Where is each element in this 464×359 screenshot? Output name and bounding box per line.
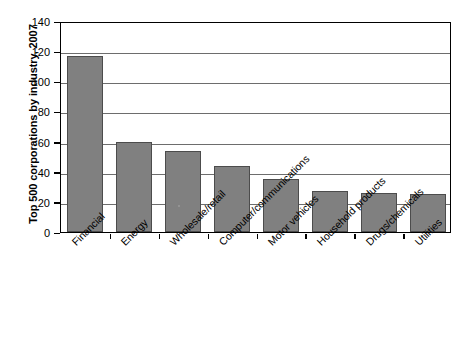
y-tick: 60 [0,137,60,149]
y-tick-label: 40 [38,167,50,179]
x-tick-mark [305,234,307,239]
y-tick-label: 20 [38,197,50,209]
x-tick-mark [110,234,112,239]
x-tick-mark [403,234,405,239]
y-axis-ticks: 020406080100120140 [0,0,60,359]
y-tick: 120 [0,46,60,58]
y-tick-label: 0 [44,227,50,239]
x-tick-mark [208,234,210,239]
y-tick-label: 100 [32,76,50,88]
gridline [61,113,450,114]
bar [67,56,103,232]
y-tick: 80 [0,106,60,118]
bar [116,142,152,232]
y-tick-label: 120 [32,46,50,58]
y-tick: 0 [0,227,60,239]
x-tick-mark [257,234,259,239]
y-tick: 140 [0,16,60,28]
y-tick: 40 [0,167,60,179]
x-tick-mark [159,234,161,239]
y-tick-label: 80 [38,106,50,118]
y-tick: 20 [0,197,60,209]
y-tick-label: 60 [38,137,50,149]
y-tick: 100 [0,76,60,88]
x-tick-mark [354,234,356,239]
gridline [61,53,450,54]
scan-speck [178,205,180,207]
y-tick-label: 140 [32,16,50,28]
bar-chart: Top 500 corporations by industry, 2007 0… [0,0,464,359]
gridline [61,83,450,84]
